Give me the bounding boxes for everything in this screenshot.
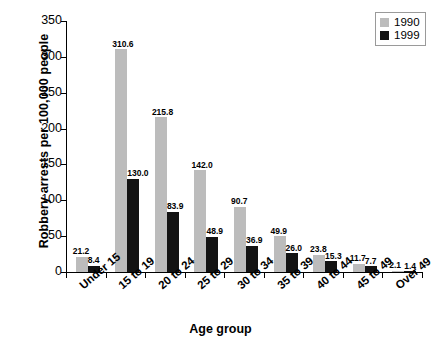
bar-1990-45-to-49: 11.7 bbox=[353, 264, 365, 272]
bar-value-label: 83.9 bbox=[167, 202, 184, 211]
bar-value-label: 26.0 bbox=[286, 244, 303, 253]
legend-swatch-icon bbox=[380, 31, 389, 40]
x-axis-title: Age group bbox=[0, 322, 441, 336]
bar-value-label: 90.7 bbox=[231, 197, 248, 206]
legend-item-1990: 1990 bbox=[380, 16, 420, 29]
bar-1990-20-to-24: 215.8 bbox=[155, 117, 167, 272]
y-tick-label: 350 bbox=[41, 13, 62, 27]
robbery-arrests-bar-chart: Robbery arrests per 100,000 people 05010… bbox=[0, 0, 441, 349]
x-tick-mark bbox=[66, 272, 67, 278]
bar-value-label: 130.0 bbox=[127, 169, 148, 178]
bar-group: 23.815.3 bbox=[313, 21, 337, 272]
bar-value-label: 36.9 bbox=[246, 236, 263, 245]
bar-group: 21.28.4 bbox=[76, 21, 100, 272]
legend: 19901999 bbox=[375, 12, 426, 46]
bar-value-label: 142.0 bbox=[191, 161, 212, 170]
y-tick-label: 250 bbox=[41, 85, 62, 99]
y-tick-label: 200 bbox=[41, 121, 62, 135]
y-tick-label: 100 bbox=[41, 192, 62, 206]
bar-group: 215.883.9 bbox=[155, 21, 179, 272]
bar-value-label: 48.9 bbox=[206, 227, 223, 236]
legend-swatch-icon bbox=[380, 18, 389, 27]
bar-group: 90.736.9 bbox=[234, 21, 258, 272]
legend-item-1999: 1999 bbox=[380, 29, 420, 42]
bar-1990-35-to-39: 49.9 bbox=[274, 236, 286, 272]
legend-label: 1990 bbox=[394, 17, 420, 29]
y-tick-label: 50 bbox=[48, 228, 62, 242]
bar-group: 142.048.9 bbox=[194, 21, 218, 272]
plot-area: 050100150200250300350 21.28.4310.6130.02… bbox=[66, 21, 422, 272]
bar-value-label: 310.6 bbox=[112, 40, 133, 49]
y-tick-label: 300 bbox=[41, 49, 62, 63]
bar-1990-under-15: 21.2 bbox=[76, 257, 88, 272]
bar-group: 310.6130.0 bbox=[115, 21, 139, 272]
bar-1990-30-to-34: 90.7 bbox=[234, 207, 246, 272]
bar-group: 11.77.7 bbox=[353, 21, 377, 272]
bar-group: 49.926.0 bbox=[274, 21, 298, 272]
bar-1999-15-to-19: 130.0 bbox=[127, 179, 139, 272]
bar-value-label: 15.3 bbox=[325, 252, 342, 261]
y-tick-label: 0 bbox=[55, 264, 62, 278]
bar-1990-over-49: 2.1 bbox=[392, 271, 404, 273]
y-tick-label: 150 bbox=[41, 156, 62, 170]
bar-value-label: 21.2 bbox=[73, 247, 90, 256]
bar-group: 2.11.4 bbox=[392, 21, 416, 272]
legend-label: 1999 bbox=[394, 30, 420, 42]
bar-1990-25-to-29: 142.0 bbox=[194, 170, 206, 272]
y-axis-line bbox=[66, 21, 67, 272]
bar-value-label: 215.8 bbox=[152, 108, 173, 117]
bar-value-label: 49.9 bbox=[271, 227, 288, 236]
bar-1990-15-to-19: 310.6 bbox=[115, 49, 127, 272]
